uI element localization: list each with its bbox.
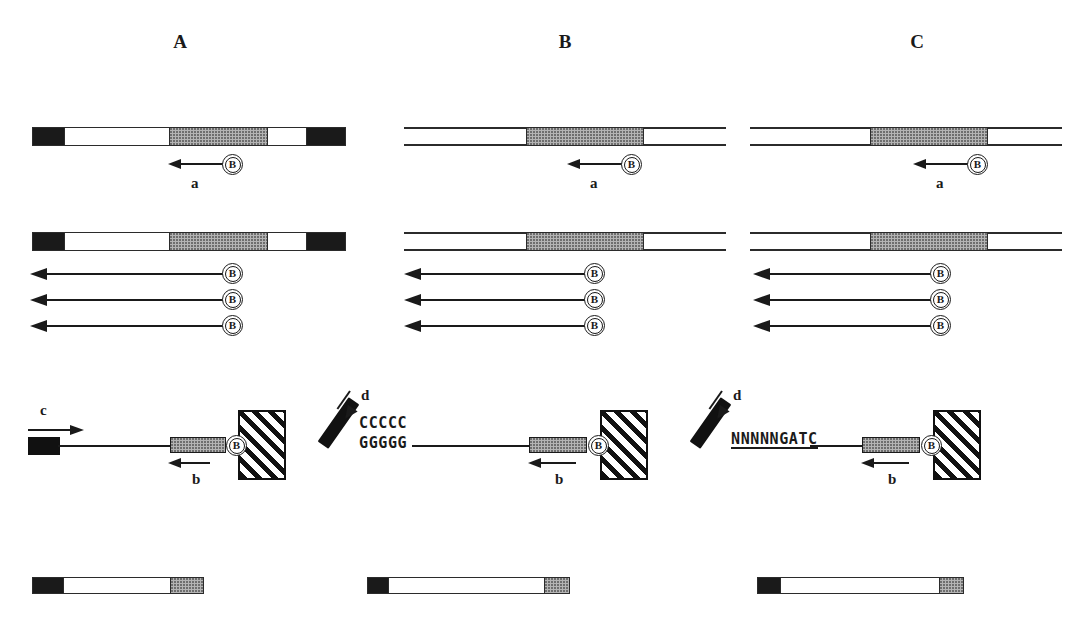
arrow-shaft [762,325,945,327]
panel-b-sequence-top: CCCCC [359,415,407,431]
panel-b-row1-biotin: B [621,154,642,175]
segment-gray-right [171,578,203,593]
segment-gray-middle [170,233,266,250]
panel-a-extension-product-1 [30,268,230,280]
panel-a-label-b: b [192,472,200,487]
panel-a-primer-arrow-a [168,159,224,169]
panel-b-strand-line [412,445,532,447]
panel-b-label-d: d [361,388,369,403]
panel-b-row2-biotin-3: B [584,315,605,336]
biotin-label: B [933,318,949,334]
panel-b-extension-product-2 [404,294,599,306]
segment-white-left [64,128,170,145]
arrow-shaft [574,163,623,165]
segment-gray-middle [526,232,644,251]
arrow-shaft [920,163,969,165]
arrow-shaft [39,325,230,327]
panel-c-extension-product-2 [753,294,945,306]
arrow-shaft [39,273,230,275]
arrow-shaft [175,163,224,165]
segment-black-left [758,578,780,593]
panel-a-strand-line [58,445,172,447]
biotin-label: B [933,292,949,308]
segment-black-right [307,233,345,250]
segment-gray-right [940,578,963,593]
panel-c-row1-label-a: a [936,176,944,191]
panel-c-extension-product-3 [753,320,945,332]
panel-a-row2-biotin-1: B [222,263,243,284]
panel-a-row2-biotin-3: B [222,315,243,336]
arrow-shaft [39,299,230,301]
biotin-label: B [225,292,241,308]
panel-c-row1-biotin: B [967,154,988,175]
segment-black-left [368,578,388,593]
panel-b-row2-template [404,232,726,251]
panel-c-extension-product-1 [753,268,945,280]
panel-b-row1-template [404,127,726,146]
panel-b-extension-product-3 [404,320,599,332]
arrow-shaft [413,273,599,275]
panel-b-gray-probe-box [529,437,587,453]
biotin-label: B [591,438,607,454]
biotin-label: B [587,292,603,308]
panel-c-row1-template [750,127,1062,146]
panel-b-row2-biotin-1: B [584,263,605,284]
panel-c-row2-template [750,232,1062,251]
panel-b-product-bar [367,577,570,594]
panel-c-label-d: d [733,388,741,403]
segment-black-left [33,233,64,250]
panel-c-row2-biotin-1: B [930,263,951,284]
panel-b-row2-biotin-2: B [584,289,605,310]
panel-a-row1-template [32,127,346,146]
biotin-label: B [587,266,603,282]
panel-a-gray-probe-box [170,437,226,453]
arrow-shaft [762,299,945,301]
panel-c-row2-biotin-2: B [930,289,951,310]
arrow-shaft [28,429,72,431]
panel-a-row3-biotin: B [226,435,247,456]
biotin-label: B [225,157,241,173]
biotin-label: B [587,318,603,334]
arrowhead-icon [70,425,84,435]
panel-a-arrow-c [28,425,84,435]
biotin-label: B [924,438,940,454]
segment-gray-middle [526,127,644,146]
panel-c-arrow-b [861,458,909,468]
panel-letter-b: B [545,32,585,51]
segment-black-left [33,578,63,593]
panel-a-row2-template [32,232,346,251]
biotin-label: B [225,266,241,282]
arrow-shaft [868,462,909,464]
panel-c-row2-biotin-3: B [930,315,951,336]
panel-b-sequence-bottom: GGGGG [359,435,407,451]
panel-c-primer-arrow-a [913,159,969,169]
panel-a-row1-biotin: B [222,154,243,175]
segment-gray-middle [170,128,266,145]
segment-black-left [33,128,64,145]
arrow-shaft [413,299,599,301]
panel-b-primer-arrow-a [567,159,623,169]
panel-a-extension-product-2 [30,294,230,306]
panel-c-row3-biotin: B [921,435,942,456]
panel-a-arrow-b [168,458,210,468]
segment-white-right [267,233,308,250]
biotin-label: B [624,157,640,173]
panel-b-row1-label-a: a [590,176,598,191]
segment-white-middle [63,578,172,593]
biotin-label: B [225,318,241,334]
panel-b-row3-biotin: B [588,435,609,456]
panel-a-product-bar [32,577,204,594]
panel-c-label-b: b [888,472,896,487]
arrow-shaft [762,273,945,275]
panel-b-arrow-b [528,458,576,468]
arrow-shaft [175,462,210,464]
figure-canvas: A B C B a B a B a [0,0,1082,617]
segment-gray-right [545,578,569,593]
segment-gray-middle [870,232,988,251]
segment-white-left [64,233,170,250]
panel-b-extension-product-1 [404,268,599,280]
panel-b-label-b: b [555,472,563,487]
panel-c-gray-probe-box [862,437,920,453]
arrow-shaft [535,462,576,464]
segment-white-middle [388,578,545,593]
